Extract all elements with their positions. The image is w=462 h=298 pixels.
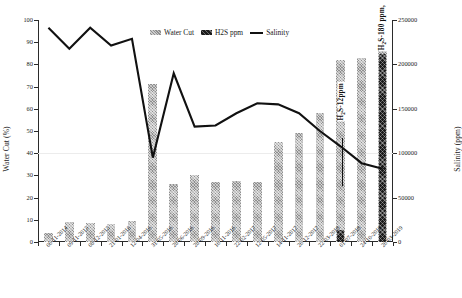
left-tick-label: 60 — [27, 106, 33, 112]
right-tick-label: 250000 — [398, 17, 417, 23]
x-axis-labels: 06-11-201409-11-201508-12-201521-01-2016… — [38, 244, 393, 298]
left-tick-label: 70 — [27, 83, 33, 89]
left-tick-label: 100 — [23, 17, 33, 23]
right-tick-label: 50000 — [398, 194, 414, 200]
plot-area: 0102030405060708090100 05000010000015000… — [38, 20, 393, 242]
left-tick-label: 0 — [30, 239, 33, 245]
left-tick-label: 50 — [27, 128, 33, 134]
left-tick-label: 30 — [27, 172, 33, 178]
right-tick — [393, 109, 397, 110]
right-tick — [393, 64, 397, 65]
left-tick-label: 90 — [27, 39, 33, 45]
x-tick — [393, 242, 394, 246]
left-tick-label: 40 — [27, 150, 33, 156]
left-tick-label: 80 — [27, 61, 33, 67]
left-tick-label: 20 — [27, 194, 33, 200]
right-axis-title: Salinity (ppm) — [453, 126, 462, 171]
annotation-h2s-180ppm: H2S-180 ppm, — [378, 4, 387, 51]
left-tick-label: 10 — [27, 217, 33, 223]
salinity-line-series — [38, 20, 393, 242]
right-tick-label: 150000 — [398, 106, 417, 112]
left-axis-title: Water Cut (%) — [2, 126, 11, 171]
right-tick — [393, 20, 397, 21]
right-tick-label: 100000 — [398, 150, 417, 156]
right-tick-label: 0 — [398, 239, 401, 245]
right-tick — [393, 153, 397, 154]
annotation-h2s-12ppm: H2S-12ppm — [337, 82, 346, 122]
right-tick — [393, 198, 397, 199]
right-tick-label: 200000 — [398, 61, 417, 67]
annotation-leader-line — [342, 138, 343, 186]
